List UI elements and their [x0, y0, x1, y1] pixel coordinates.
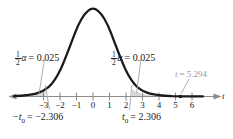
test-statistic-marker	[179, 95, 182, 98]
xtick-label-2: 2	[124, 101, 129, 110]
critical-value-label-right: t0= 2.306	[122, 112, 161, 125]
test-statistic-label: t= 5.294	[175, 70, 207, 79]
t-distribution-figure: 1 2 α= 0.025 1 2 α= 0.025 t= 5.294 −3 −2…	[0, 0, 233, 139]
fraction-numerator: 1	[15, 51, 21, 59]
xtick-label-5: 5	[173, 101, 178, 110]
alpha-label-left: 1 2 α= 0.025	[15, 51, 59, 67]
xtick-label-neg2: −2	[55, 101, 65, 110]
alpha-symbol-left: α	[21, 52, 26, 63]
xtick-label-0: 0	[91, 101, 96, 110]
xtick-label-neg1: −1	[72, 101, 82, 110]
alpha-symbol-right: α	[117, 52, 122, 63]
crit-right-value: = 2.306	[130, 111, 161, 122]
crit-left-symbol: −t	[12, 111, 22, 122]
xtick-label-3: 3	[140, 101, 145, 110]
leader-line-crit-right	[130, 85, 132, 110]
one-half-fraction-left: 1 2	[15, 51, 21, 67]
fraction-denominator: 2	[15, 58, 21, 67]
alpha-label-right: 1 2 α= 0.025	[111, 51, 155, 67]
xtick-label-neg3: −3	[39, 101, 49, 110]
crit-left-subscript: 0	[22, 117, 26, 125]
critical-value-label-left: −t0= −2.306	[12, 112, 63, 125]
crit-right-subscript: 0	[125, 117, 129, 125]
test-statistic-symbol: t	[175, 69, 178, 79]
leader-line-test-statistic	[181, 79, 189, 94]
xtick-label-4: 4	[157, 101, 162, 110]
axis-right-arrow-icon	[214, 93, 222, 99]
crit-left-value: = −2.306	[27, 111, 63, 122]
alpha-value-right: = 0.025	[125, 52, 156, 63]
xtick-label-6: 6	[190, 101, 195, 110]
x-axis-name: t	[222, 92, 225, 101]
xtick-label-1: 1	[107, 101, 112, 110]
one-half-fraction-right: 1 2	[111, 51, 117, 67]
fraction-numerator: 1	[111, 51, 117, 59]
test-statistic-value: = 5.294	[180, 69, 208, 79]
fraction-denominator: 2	[111, 58, 117, 67]
alpha-value-left: = 0.025	[29, 52, 60, 63]
